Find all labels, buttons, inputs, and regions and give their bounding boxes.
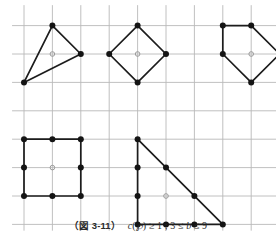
boundary-lattice-point: [220, 51, 226, 57]
figure-caption: （図 3-11）c(℘) ≥ 1 ; 3 ≤ b ≤ 9: [0, 218, 276, 232]
boundary-lattice-point: [191, 193, 197, 199]
formula-b-range-right: ≤ 9: [191, 220, 207, 231]
polygons-group: [24, 26, 276, 225]
boundary-lattice-point: [135, 136, 141, 142]
boundary-lattice-point: [49, 23, 55, 29]
formula-ge-one: ≥ 1 ;: [146, 220, 167, 231]
lattice-polygons-figure: （図 3-11）c(℘) ≥ 1 ; 3 ≤ b ≤ 9: [0, 0, 276, 249]
boundary-lattice-point: [49, 136, 55, 142]
boundary-lattice-point: [163, 165, 169, 171]
boundary-lattice-point: [220, 23, 226, 29]
formula-script-p: ℘: [136, 220, 143, 231]
boundary-lattice-point: [135, 165, 141, 171]
boundary-lattice-point: [135, 23, 141, 29]
lattice-grid-canvas: [0, 0, 276, 249]
boundary-lattice-point: [49, 193, 55, 199]
boundary-lattice-point: [21, 79, 27, 85]
formula-b-range-left: 3 ≤: [168, 220, 187, 231]
boundary-lattice-point: [248, 23, 254, 29]
boundary-lattice-point: [78, 136, 84, 142]
figure-number-label: （図 3-11）: [69, 218, 121, 232]
boundary-lattice-point: [21, 136, 27, 142]
boundary-lattice-point: [78, 193, 84, 199]
boundary-lattice-point: [135, 79, 141, 85]
figure-formula: c(℘) ≥ 1 ; 3 ≤ b ≤ 9: [128, 220, 207, 231]
boundary-lattice-point: [21, 193, 27, 199]
boundary-lattice-point: [163, 51, 169, 57]
boundary-lattice-point: [78, 165, 84, 171]
boundary-lattice-point: [21, 165, 27, 171]
boundary-lattice-point: [135, 193, 141, 199]
boundary-lattice-point: [248, 79, 254, 85]
boundary-lattice-point: [78, 51, 84, 57]
polygon-right-triangle-b9: [138, 139, 223, 224]
boundary-lattice-point: [106, 51, 112, 57]
